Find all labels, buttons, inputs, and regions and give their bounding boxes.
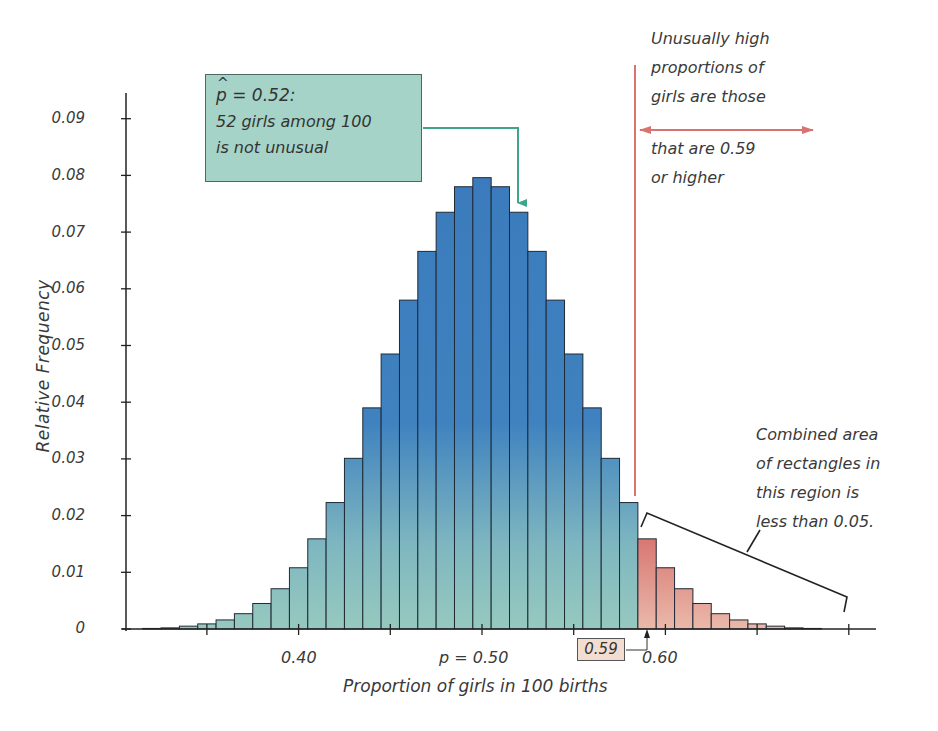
unusually-high-note-continued: that are 0.59 or higher — [651, 134, 756, 192]
histogram-bar — [473, 178, 491, 629]
threshold-marker-arrowhead — [644, 629, 650, 638]
histogram-chart — [0, 0, 938, 731]
histogram-bar — [601, 458, 619, 629]
y-tick-label: 0 — [30, 619, 85, 637]
callout-line: 52 girls among 100 — [216, 109, 421, 135]
callout-title-value: = 0.52: — [227, 85, 296, 105]
y-tick-label: 0.02 — [30, 506, 85, 524]
tail-bar — [656, 568, 674, 629]
callout-line: is not unusual — [216, 135, 421, 161]
histogram-bar — [418, 251, 436, 629]
histogram-bar — [253, 603, 271, 629]
tail-bar — [730, 620, 748, 629]
callout-title: p = 0.52: — [216, 81, 421, 109]
note-line: that are 0.59 — [651, 134, 756, 163]
histogram-bar — [363, 408, 381, 629]
sample-proportion-callout: p = 0.52: 52 girls among 100 is not unus… — [205, 74, 422, 182]
x-tick-label-050: p = 0.50 — [439, 648, 508, 667]
histogram-bar — [565, 354, 583, 629]
x-tick-label-040: 0.40 — [281, 648, 317, 667]
histogram-bar — [289, 568, 307, 629]
p-hat-symbol: p — [216, 81, 227, 109]
histogram-bar — [528, 251, 546, 629]
unusually-high-note: Unusually high proportions of girls are … — [651, 24, 770, 111]
histogram-bar — [546, 300, 564, 629]
histogram-bar — [491, 187, 509, 629]
tail-bar — [675, 589, 693, 629]
tail-bar — [711, 614, 729, 629]
histogram-bar — [454, 187, 472, 629]
tail-bar — [638, 539, 656, 629]
histogram-bar — [436, 212, 454, 629]
y-tick-label: 0.01 — [30, 563, 85, 581]
histogram-bar — [583, 408, 601, 629]
combined-area-note: Combined area of rectangles in this regi… — [756, 420, 880, 536]
note-line: proportions of — [651, 53, 770, 82]
histogram-bar — [326, 503, 344, 629]
histogram-bar — [216, 620, 234, 629]
note-line: this region is — [756, 478, 880, 507]
note-line: Combined area — [756, 420, 880, 449]
y-axis-label: Relative Frequency — [33, 261, 53, 471]
y-tick-label: 0.08 — [30, 166, 85, 184]
histogram-bar — [399, 300, 417, 629]
histogram-bar — [510, 212, 528, 629]
tail-bar — [693, 603, 711, 629]
note-line: or higher — [651, 163, 756, 192]
histogram-bar — [271, 589, 289, 629]
histogram-bar — [344, 458, 362, 629]
note-line: less than 0.05. — [756, 507, 880, 536]
threshold-value-box: 0.59 — [577, 638, 625, 661]
histogram-bar — [234, 614, 252, 629]
histogram-bars — [143, 178, 822, 629]
histogram-bar — [381, 354, 399, 629]
x-axis-label: Proportion of girls in 100 births — [343, 676, 608, 696]
note-line: Unusually high — [651, 24, 770, 53]
y-tick-label: 0.07 — [30, 223, 85, 241]
note-line: of rectangles in — [756, 449, 880, 478]
note-line: girls are those — [651, 82, 770, 111]
x-tick-label-060: 0.60 — [642, 648, 678, 667]
histogram-bar — [308, 539, 326, 629]
histogram-bar — [620, 503, 638, 629]
y-tick-label: 0.09 — [30, 109, 85, 127]
